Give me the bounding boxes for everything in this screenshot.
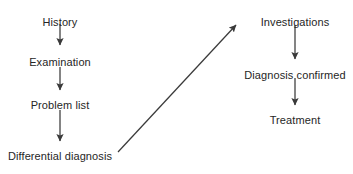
node-label-investigations: Investigations <box>261 16 330 29</box>
node-label-problem-list: Problem list <box>31 99 90 112</box>
node-label-differential: Differential diagnosis <box>8 150 112 163</box>
node-label-treatment: Treatment <box>270 114 321 127</box>
node-label-diagnosis-confirmed: Diagnosis confirmed <box>244 69 346 82</box>
node-label-history: History <box>43 16 78 29</box>
connector-differential-to-investigations <box>118 25 236 152</box>
node-label-examination: Examination <box>29 56 91 69</box>
flowchart-diagram: HistoryExaminationProblem listDifferenti… <box>0 0 353 174</box>
